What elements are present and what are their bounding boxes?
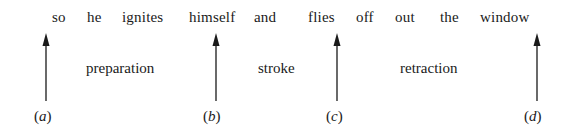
phase-preparation: preparation — [86, 60, 154, 77]
marker-a: (a) — [34, 108, 52, 125]
marker-c-letter: c — [331, 108, 338, 124]
phase-retraction: retraction — [400, 60, 457, 77]
marker-a-letter: a — [39, 108, 47, 124]
marker-b: (b) — [203, 108, 221, 125]
arrow-up-icon-a — [43, 33, 50, 101]
marker-b-letter: b — [208, 108, 216, 124]
marker-d-letter: d — [529, 108, 537, 124]
phase-stroke: stroke — [258, 60, 295, 77]
arrow-up-icon-d — [534, 33, 541, 101]
marker-d: (d) — [524, 108, 542, 125]
arrow-up-icon-c — [334, 33, 341, 101]
marker-c: (c) — [326, 108, 343, 125]
arrow-up-icon-b — [213, 33, 220, 101]
